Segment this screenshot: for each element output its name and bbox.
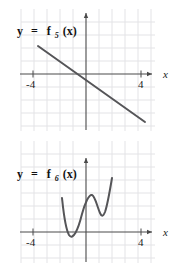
- x-tick-label-neg4-f5: -4: [26, 78, 36, 90]
- math-figure-two-graphs: -4 4 x y = f 5 (x): [0, 0, 185, 271]
- label-subscript-f6: 6: [55, 174, 59, 183]
- label-y-f5: y: [17, 24, 23, 38]
- label-equals-f5: =: [31, 24, 38, 38]
- x-axis-title-f6: x: [162, 226, 168, 238]
- label-y-f6: y: [17, 167, 23, 181]
- x-tick-label-neg4-f6: -4: [26, 236, 36, 248]
- label-arg-f6: (x): [63, 167, 77, 181]
- x-axis-title-f5: x: [162, 68, 168, 80]
- figure-background: [0, 0, 185, 271]
- label-fname-f5: f: [47, 24, 52, 38]
- x-tick-label-pos4-f6: 4: [138, 236, 144, 248]
- label-arg-f5: (x): [63, 24, 77, 38]
- label-subscript-f5: 5: [55, 31, 59, 40]
- label-equals-f6: =: [31, 167, 38, 181]
- x-tick-label-pos4-f5: 4: [138, 78, 144, 90]
- label-fname-f6: f: [47, 167, 52, 181]
